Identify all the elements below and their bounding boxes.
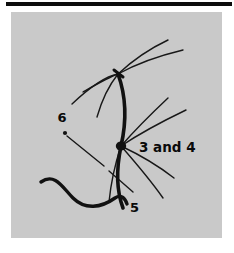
top-horizontal-rule [6, 2, 232, 6]
label-5: 5 [130, 200, 139, 215]
upper-ray-left-upper [72, 74, 118, 104]
connector-segment-lower [109, 171, 133, 192]
figure-page: 6 3 and 4 5 [0, 0, 234, 253]
upper-ray-right-upper [118, 40, 168, 74]
thin-radiating-lines-upper [72, 40, 183, 117]
main-node-dot [116, 141, 126, 150]
upper-ray-left-lower [97, 74, 118, 117]
label-3-and-4: 3 and 4 [139, 139, 196, 155]
connector-segment-upper [67, 136, 104, 166]
hand-drawn-diagram: 6 3 and 4 5 [11, 12, 222, 238]
upper-ray-left-middle [83, 74, 118, 92]
thick-wavy-curve [41, 179, 127, 206]
label-6: 6 [57, 110, 66, 125]
thick-main-curve [118, 74, 125, 208]
figure-panel: 6 3 and 4 5 [11, 12, 222, 238]
point-6-dot [63, 131, 67, 135]
upper-ray-right-lower [118, 50, 183, 74]
